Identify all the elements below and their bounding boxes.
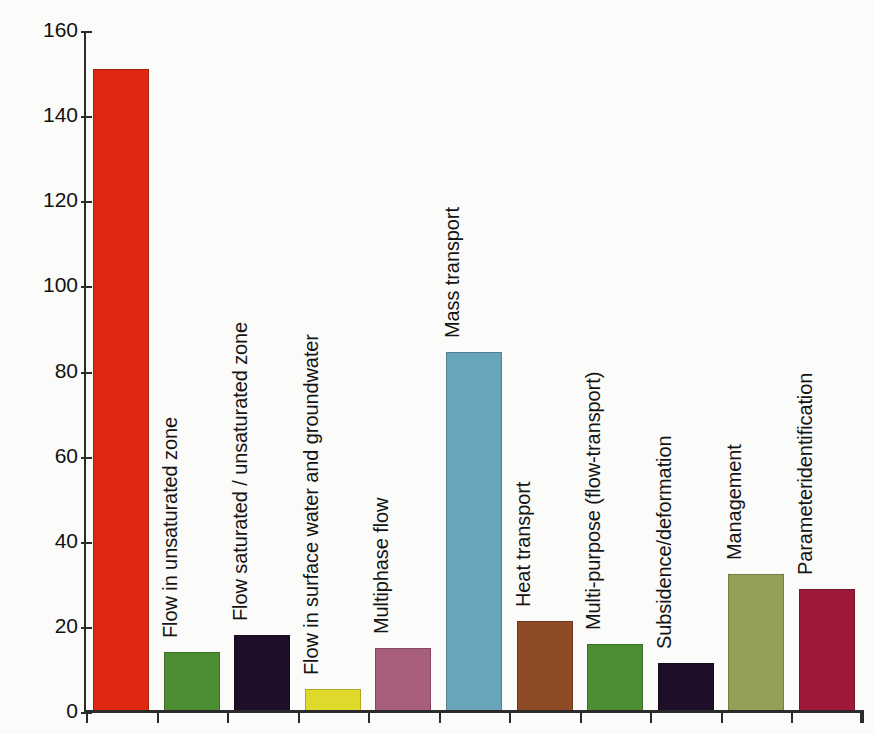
y-axis-tick-label: 40 [55,529,78,553]
x-axis-tick-mark [509,710,511,723]
bar[interactable] [799,589,855,712]
x-axis-tick-mark [650,710,652,723]
y-axis-tick-label: 0 [66,699,78,723]
x-axis-tick-mark [157,710,159,723]
y-axis-tick: 60 [30,457,92,458]
y-axis-tick: 100 [30,286,92,287]
x-axis-tick-mark [862,710,864,723]
bar-label: Flow in surface water and groundwater [300,334,323,675]
y-axis-tick-label: 20 [55,614,78,638]
bar-label: Mass transport [441,207,464,338]
bar-label: Multiphase flow [370,498,393,634]
chart-canvas: Number of codes in survey 02040608010012… [0,0,875,734]
y-axis-tick-label: 160 [43,18,78,42]
x-axis-tick-mark [86,710,88,723]
bar[interactable] [375,648,431,712]
bar[interactable] [93,69,149,712]
bar-slot: Mass transport [439,31,510,712]
bar-label: Heat transport [512,481,535,606]
bar[interactable] [587,644,643,712]
bar[interactable] [305,689,361,712]
bar[interactable] [728,574,784,712]
bar[interactable] [234,635,290,712]
plot-area: Groundwater flow (saturated zone)Flow in… [86,31,862,712]
bar-slot: Flow in unsaturated zone [157,31,228,712]
bar-slot: Groundwater flow (saturated zone) [86,31,157,712]
bar-label: Flow saturated / unsaturated zone [229,322,252,621]
x-axis-tick-mark [721,710,723,723]
bar-label: Multi-purpose (flow-transport) [582,372,605,630]
y-axis-tick: 120 [30,201,92,202]
y-axis-tick: 140 [30,116,92,117]
bar-slot: Parameteridentification [791,31,862,712]
bar-label: Subsidence/deformation [653,436,676,650]
bar-slot: Multiphase flow [368,31,439,712]
y-axis-tick-label: 140 [43,103,78,127]
bar[interactable] [517,621,573,713]
y-axis-tick: 160 [30,31,92,32]
bar-slot: Flow saturated / unsaturated zone [227,31,298,712]
bar-label: Flow in unsaturated zone [159,417,182,638]
x-axis-tick-mark [298,710,300,723]
bar-slot: Management [721,31,792,712]
bar-slot: Heat transport [509,31,580,712]
x-axis-line [84,710,862,713]
y-axis-title: Number of codes in survey [4,0,32,28]
y-axis-tick: 0 [30,712,92,713]
y-axis-tick: 20 [30,627,92,628]
y-axis-tick: 80 [30,372,92,373]
bar-slot: Flow in surface water and groundwater [298,31,369,712]
y-axis-tick: 40 [30,542,92,543]
bar-label: Parameteridentification [794,372,817,574]
x-axis-tick-mark [580,710,582,723]
x-axis-tick-mark [368,710,370,723]
y-axis-tick-label: 120 [43,188,78,212]
x-axis-tick-mark [439,710,441,723]
y-axis-tick-label: 100 [43,273,78,297]
y-axis-tick-label: 60 [55,444,78,468]
x-axis-endcap-tick [860,710,862,723]
x-axis-tick-mark [791,710,793,723]
bar-label: Management [723,444,746,560]
bar[interactable] [164,652,220,712]
x-axis-tick-mark [227,710,229,723]
y-axis-tick-label: 80 [55,359,78,383]
bar-slot: Multi-purpose (flow-transport) [580,31,651,712]
bar[interactable] [446,352,502,712]
bar-slot: Subsidence/deformation [650,31,721,712]
bar[interactable] [658,663,714,712]
